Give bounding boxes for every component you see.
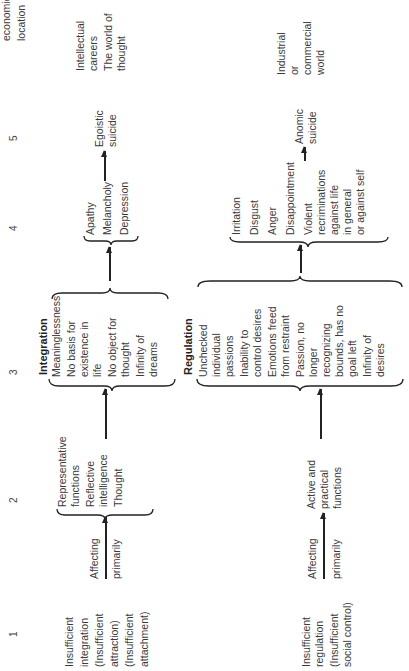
outcome-line: suicide: [106, 110, 119, 147]
arrow-icon: [105, 517, 107, 579]
location-line: Industrial: [275, 3, 288, 75]
state-line: individual: [210, 282, 223, 377]
right-brace-icon: [196, 275, 404, 287]
state-line: life: [91, 297, 104, 377]
cause-line: Insufficient: [300, 587, 313, 667]
insufficient-regulation-cause: Insufficient regulation (Insufficient so…: [300, 587, 356, 667]
state-line: Meaninglessness: [50, 297, 63, 377]
function-line: practical: [318, 460, 331, 509]
column-number-4: 4: [7, 225, 20, 231]
socio-economic-header: economic location: [0, 0, 30, 41]
cause-line: (Insufficient: [328, 587, 341, 667]
location-line: thought: [115, 1, 128, 71]
state-line: Unchecked: [197, 282, 210, 377]
emotion-line: Melancholy: [101, 182, 114, 235]
arrow-icon: [320, 389, 322, 439]
location-line: commercial: [301, 3, 314, 75]
intellectual-functions-list: Representative functions Reflective inte…: [56, 432, 127, 507]
regulation-emotions-list: Irritation Disgust Anger Disappointment …: [230, 162, 367, 235]
insufficient-integration-cause: Insufficient integration (Insufficient a…: [63, 599, 153, 667]
state-line: Emotions freed: [266, 282, 279, 377]
state-line: goal left: [346, 282, 359, 377]
function-line: Reflective: [84, 432, 97, 507]
cause-line: (Insufficient: [93, 599, 106, 667]
function-line: Representative: [56, 432, 69, 507]
left-brace-icon: [195, 377, 405, 391]
left-brace-icon: [55, 507, 155, 519]
location-line: or: [288, 3, 301, 75]
state-line: desires: [374, 282, 387, 377]
emotion-line: in general: [341, 162, 354, 235]
emotion-line: Disgust: [248, 162, 261, 235]
function-line: Active and: [305, 460, 318, 509]
arrow-icon: [300, 245, 302, 273]
cause-line: attraction): [108, 599, 121, 667]
state-line: control desires: [251, 282, 264, 377]
header-line: economic: [0, 0, 13, 41]
cause-line: regulation: [313, 587, 326, 667]
section-title-integration: Integration: [37, 318, 50, 375]
arrow-icon: [109, 247, 111, 281]
cause-line: (Insufficient: [123, 599, 136, 667]
state-line: longer: [307, 282, 320, 377]
state-line: thought: [119, 297, 132, 377]
outcome-line: suicide: [306, 109, 319, 144]
state-line: existence in: [78, 297, 91, 377]
integration-states-list: Meaninglessness No basis for existence i…: [50, 297, 162, 377]
left-brace-icon: [82, 235, 140, 245]
emotion-line: Violent: [302, 162, 315, 235]
function-line: functions: [331, 460, 344, 509]
column-number-2: 2: [7, 497, 20, 503]
state-line: recognizing: [320, 282, 333, 377]
column-number-5: 5: [7, 135, 20, 141]
outcome-line: Anomic: [293, 109, 306, 144]
emotion-line: recriminations: [315, 162, 328, 235]
arrow-icon: [323, 513, 325, 579]
function-line: Thought: [112, 432, 125, 507]
cause-line: integration: [78, 599, 91, 667]
integration-location: Intellectual careers The world of though…: [74, 1, 130, 71]
location-line: Intellectual: [74, 1, 87, 71]
function-line: intelligence: [97, 432, 110, 507]
state-line: bounds, has no: [333, 282, 346, 377]
outcome-line: Egoistic: [93, 110, 106, 147]
cause-line: social control): [341, 587, 354, 667]
state-line: Infinity of: [134, 297, 147, 377]
integration-emotions-list: Apathy Melancholy Depression: [84, 182, 133, 235]
emotion-line: Apathy: [84, 182, 97, 235]
durkheim-suicide-diagram: 1 2 3 4 5 economic location Insufficient…: [0, 0, 409, 671]
location-line: careers: [87, 1, 100, 71]
primarily-label: primarily: [330, 539, 343, 579]
practical-functions-list: Active and practical functions: [305, 460, 346, 509]
state-line: Inability to: [238, 282, 251, 377]
section-title-regulation: Regulation: [182, 318, 195, 375]
left-brace-icon: [228, 235, 390, 247]
column-number-1: 1: [7, 631, 20, 637]
state-line: dreams: [147, 297, 160, 377]
left-brace-icon: [47, 377, 177, 391]
emotion-line: Depression: [118, 182, 131, 235]
state-line: Infinity of: [361, 282, 374, 377]
state-line: passions: [223, 282, 236, 377]
state-line: No basis for: [65, 297, 78, 377]
arrow-icon: [105, 389, 107, 439]
emotion-line: Anger: [266, 162, 279, 235]
column-number-3: 3: [7, 369, 20, 375]
anomic-suicide-outcome: Anomic suicide: [293, 109, 321, 144]
arrow-icon: [104, 151, 106, 181]
header-line: location: [15, 0, 28, 41]
affecting-label: Affecting: [306, 538, 319, 579]
egoistic-suicide-outcome: Egoistic suicide: [93, 110, 121, 147]
right-brace-icon: [50, 287, 170, 299]
state-line: from restraint: [279, 282, 292, 377]
location-line: The world of: [102, 1, 115, 71]
state-line: Passion, no: [294, 282, 307, 377]
emotion-line: Disappointment: [284, 162, 297, 235]
emotion-line: against life: [328, 162, 341, 235]
location-line: world: [314, 3, 327, 75]
arrow-icon: [304, 147, 306, 161]
cause-line: Insufficient: [63, 599, 76, 667]
emotion-line: or against self: [354, 162, 367, 235]
regulation-states-list: Unchecked individual passions Inability …: [197, 282, 389, 377]
function-line: functions: [69, 432, 82, 507]
